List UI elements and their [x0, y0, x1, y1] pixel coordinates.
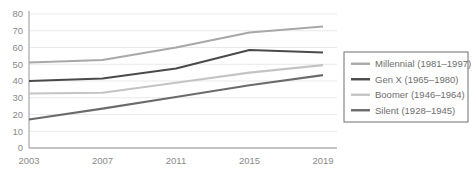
y-axis-tick-labels: 01020304050607080 [12, 8, 23, 153]
y-tick-label: 20 [12, 109, 23, 120]
y-tick-label: 30 [12, 92, 23, 103]
chart-title-cropped [0, 0, 473, 9]
line-chart: 01020304050607080 20032007201120152019 M… [0, 0, 473, 176]
y-tick-label: 80 [12, 8, 23, 19]
y-tick-label: 0 [18, 142, 23, 153]
x-axis-tick-labels: 20032007201120152019 [18, 155, 333, 166]
legend-label: Gen X (1965–1980) [375, 74, 458, 85]
x-tick-label: 2015 [239, 155, 260, 166]
x-tick-label: 2019 [312, 155, 333, 166]
legend-label: Millennial (1981–1997) [375, 58, 471, 69]
y-tick-label: 70 [12, 25, 23, 36]
series-line [29, 27, 323, 63]
chart-legend: Millennial (1981–1997)Gen X (1965–1980)B… [344, 52, 471, 122]
series-line [29, 50, 323, 81]
chart-canvas: 01020304050607080 20032007201120152019 M… [0, 0, 473, 176]
x-tick-label: 2011 [166, 155, 186, 166]
y-tick-label: 50 [12, 59, 23, 70]
series-lines-group [29, 27, 323, 120]
y-tick-label: 10 [12, 126, 23, 137]
legend-label: Silent (1928–1945) [375, 105, 455, 116]
legend-label: Boomer (1946–1964) [375, 89, 465, 100]
x-tick-label: 2007 [92, 155, 113, 166]
y-tick-label: 40 [12, 75, 23, 86]
x-tick-label: 2003 [18, 155, 39, 166]
y-tick-label: 60 [12, 42, 23, 53]
